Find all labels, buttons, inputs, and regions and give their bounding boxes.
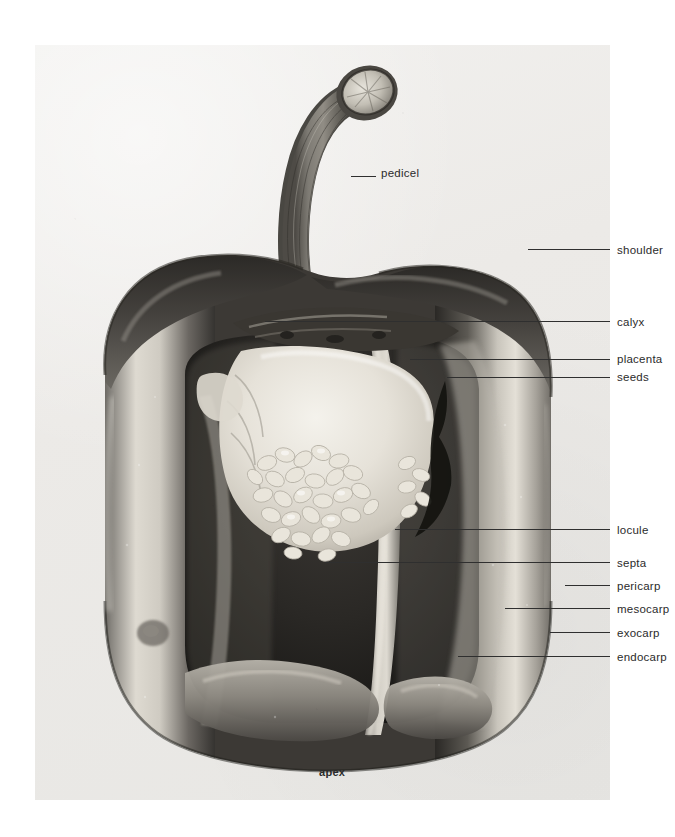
label-exocarp: exocarp [617, 628, 660, 640]
leader-line-exocarp [550, 632, 610, 633]
leader-line-mesocarp [505, 608, 610, 609]
leader-line-pedicel [351, 176, 376, 177]
leader-line-calyx [265, 321, 610, 322]
label-pericarp: pericarp [617, 581, 661, 593]
photo-grain [35, 45, 610, 800]
label-apex: apex [319, 767, 345, 778]
leader-line-endocarp [458, 656, 610, 657]
specimen-photograph [35, 45, 610, 800]
label-calyx: calyx [617, 317, 644, 329]
leader-line-shoulder [528, 249, 610, 250]
label-pedicel: pedicel [381, 168, 419, 180]
label-endocarp: endocarp [617, 652, 667, 664]
figure-canvas: pedicelshouldercalyxplacentaseedslocules… [0, 0, 675, 837]
label-locule: locule [617, 525, 649, 537]
label-septa: septa [617, 558, 646, 570]
label-seeds: seeds [617, 372, 649, 384]
label-placenta: placenta [617, 354, 662, 366]
label-shoulder: shoulder [617, 245, 663, 257]
leader-line-locule [395, 529, 610, 530]
leader-line-pericarp [565, 585, 610, 586]
leader-line-seeds [447, 377, 610, 378]
leader-line-placenta [410, 359, 610, 360]
label-mesocarp: mesocarp [617, 604, 670, 616]
leader-line-septa [325, 562, 610, 563]
